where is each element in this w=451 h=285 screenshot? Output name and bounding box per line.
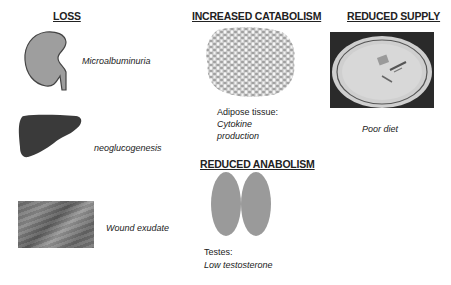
neoglucogenesis-caption: neoglucogenesis bbox=[94, 143, 162, 153]
liver-icon bbox=[18, 113, 84, 159]
reduced-anabolism-heading: REDUCED ANABOLISM bbox=[200, 158, 315, 170]
wound-exudate-caption: Wound exudate bbox=[106, 223, 169, 233]
testes-caption-label: Testes: bbox=[204, 247, 233, 257]
microalbuminuria-caption: Microalbuminuria bbox=[82, 56, 151, 66]
increased-catabolism-heading: INCREASED CATABOLISM bbox=[192, 10, 321, 22]
empty-plate-image bbox=[330, 32, 434, 108]
kidney-icon bbox=[22, 30, 72, 95]
low-testosterone-caption: Low testosterone bbox=[204, 260, 273, 270]
wound-image bbox=[18, 201, 94, 248]
poor-diet-caption: Poor diet bbox=[362, 124, 398, 134]
loss-heading: LOSS bbox=[53, 10, 81, 22]
adipose-caption-cytokine: Cytokine bbox=[217, 119, 252, 129]
adipose-caption-label: Adipose tissue: bbox=[217, 107, 278, 117]
adipose-caption-production: production bbox=[217, 131, 259, 141]
reduced-supply-heading: REDUCED SUPPLY bbox=[347, 10, 440, 22]
testes-icon bbox=[210, 170, 274, 238]
adipose-tissue-icon bbox=[204, 26, 296, 98]
